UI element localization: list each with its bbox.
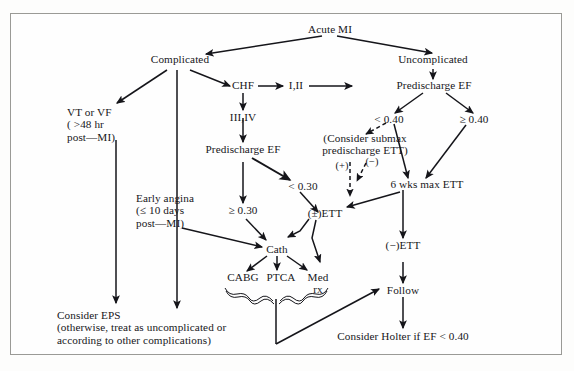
- edge-ef-lt040: [395, 93, 423, 113]
- node-med-rx: Med rx: [308, 271, 329, 296]
- node-class-i-ii: I,II: [289, 79, 303, 91]
- node-neg-ett: (−)ETT: [386, 239, 421, 251]
- edge-ef-ge040: [446, 93, 473, 113]
- node-early-angina: Early angina (≤ 10 days post—MI): [136, 192, 194, 229]
- edge-cath-medrx: [287, 256, 307, 270]
- edge-acutemi-complicated: [206, 36, 322, 54]
- node-vt-or-vf: VT or VF ( >48 hr post—MI): [67, 106, 115, 143]
- node-cabg: CABG: [227, 271, 258, 283]
- edge-pm-ett-medrx: [312, 220, 320, 262]
- node-predischarge-ef-left: Predischarge EF: [206, 143, 281, 155]
- edge-early-angina-cath: [182, 228, 262, 247]
- node-ef-ge-030: ≥ 0.30: [228, 204, 257, 216]
- node-ef-lt-030: < 0.30: [288, 180, 317, 192]
- edge-complicated-chf: [190, 70, 230, 86]
- node-ptca: PTCA: [267, 271, 296, 283]
- edge-acutemi-uncomplicated: [337, 36, 432, 53]
- node-consider-submax-ett: (Consider submax predischarge ETT): [322, 132, 408, 157]
- flowchart-page: Acute MI Complicated Uncomplicated CHF I…: [0, 0, 574, 371]
- node-consider-holter: Consider Holter if EF < 0.40: [337, 330, 469, 342]
- node-plus-label: (+): [335, 160, 348, 172]
- node-ef-ge-040: ≥ 0.40: [459, 113, 488, 125]
- node-complicated: Complicated: [151, 53, 209, 65]
- node-pm-ett: (±)ETT: [308, 207, 343, 219]
- node-predischarge-ef-right: Predischarge EF: [397, 79, 472, 91]
- edge-complicated-vtvf: [117, 70, 167, 103]
- node-chf: CHF: [232, 79, 254, 91]
- node-acute-mi: Acute MI: [308, 23, 352, 35]
- edge-predischarge-lt030: [252, 158, 290, 180]
- edge-cath-cabg: [247, 256, 267, 271]
- node-cath: Cath: [266, 243, 288, 255]
- node-uncomplicated: Uncomplicated: [398, 53, 468, 65]
- edge-ge040-6wks: [426, 125, 466, 178]
- node-class-iii-iv: III,IV: [230, 111, 256, 123]
- edge-pm-ett-cath: [288, 219, 309, 237]
- node-6wks-max-ett: 6 wks max ETT: [390, 178, 463, 190]
- node-consider-eps: Consider EPS (otherwise, treat as uncomp…: [57, 309, 226, 346]
- node-minus-label: (−): [365, 156, 378, 168]
- edge-6wks-pm-ett: [347, 192, 400, 207]
- node-ef-lt-040: < 0.40: [374, 113, 403, 125]
- edge-ge030-cath: [246, 219, 266, 240]
- node-follow: Follow: [387, 284, 419, 296]
